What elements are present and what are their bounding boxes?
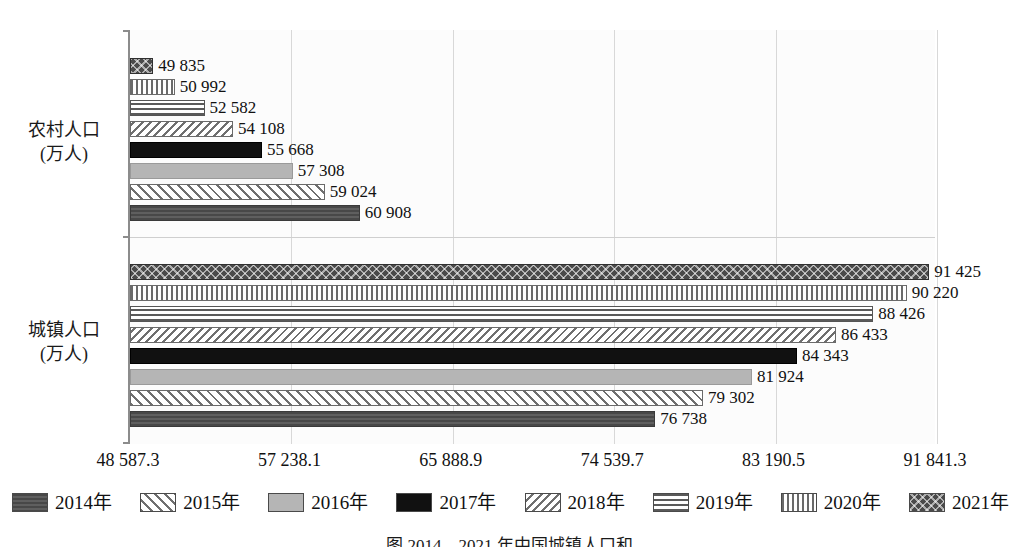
legend-item-2018[interactable]: 2018年 bbox=[525, 493, 625, 512]
plot-area: 60 90859 02457 30855 66854 10852 58250 9… bbox=[128, 30, 935, 444]
legend-item-2020[interactable]: 2020年 bbox=[781, 493, 881, 512]
bar-2021-rural bbox=[130, 58, 153, 74]
legend-item-2021[interactable]: 2021年 bbox=[909, 493, 1009, 512]
bar-2017-urban bbox=[130, 348, 797, 364]
axis-tick-mid bbox=[123, 236, 130, 238]
legend-label: 2016年 bbox=[311, 493, 368, 512]
category-label-urban: 城镇人口 (万人) bbox=[4, 318, 124, 366]
category-label-urban-line2: (万人) bbox=[4, 342, 124, 366]
category-separator bbox=[130, 237, 935, 238]
legend-label: 2019年 bbox=[696, 493, 753, 512]
category-label-urban-line1: 城镇人口 bbox=[4, 318, 124, 342]
bar-2020-rural bbox=[130, 79, 175, 95]
x-tick-label: 57 238.1 bbox=[209, 450, 369, 471]
legend-swatch-icon bbox=[525, 493, 561, 512]
category-label-rural: 农村人口 (万人) bbox=[4, 118, 124, 166]
bar-value-label: 55 668 bbox=[267, 142, 314, 158]
legend-item-2019[interactable]: 2019年 bbox=[653, 493, 753, 512]
chart-root: 60 90859 02457 30855 66854 10852 58250 9… bbox=[0, 0, 1019, 547]
bar-2014-urban bbox=[130, 411, 655, 427]
legend-label: 2018年 bbox=[568, 493, 625, 512]
axis-tick-bottom bbox=[123, 442, 130, 444]
legend-swatch-icon bbox=[653, 493, 689, 512]
bar-value-label: 50 992 bbox=[180, 79, 227, 95]
legend-swatch-icon bbox=[268, 493, 304, 512]
bar-value-label: 57 308 bbox=[298, 163, 345, 179]
x-tick-label: 83 190.5 bbox=[694, 450, 854, 471]
legend-label: 2014年 bbox=[55, 493, 112, 512]
x-tick-label: 91 841.3 bbox=[855, 450, 1015, 471]
bar-2015-urban bbox=[130, 390, 703, 406]
bar-value-label: 84 343 bbox=[802, 348, 849, 364]
category-label-rural-line2: (万人) bbox=[4, 142, 124, 166]
legend-label: 2017年 bbox=[439, 493, 496, 512]
category-label-rural-line1: 农村人口 bbox=[4, 118, 124, 142]
bar-value-label: 59 024 bbox=[330, 184, 377, 200]
bar-2017-rural bbox=[130, 142, 262, 158]
legend-item-2014[interactable]: 2014年 bbox=[12, 493, 112, 512]
bar-2018-urban bbox=[130, 327, 836, 343]
bar-2015-rural bbox=[130, 184, 325, 200]
legend-label: 2015年 bbox=[183, 493, 240, 512]
bar-value-label: 81 924 bbox=[757, 369, 804, 385]
bar-2014-rural bbox=[130, 205, 360, 221]
legend-item-2017[interactable]: 2017年 bbox=[396, 493, 496, 512]
legend-swatch-icon bbox=[12, 493, 48, 512]
bar-2016-urban bbox=[130, 369, 752, 385]
bar-value-label: 54 108 bbox=[238, 121, 285, 137]
chart-legend: 2014年2015年2016年2017年2018年2019年2020年2021年 bbox=[8, 487, 1013, 517]
bar-value-label: 79 302 bbox=[708, 390, 755, 406]
bar-value-label: 52 582 bbox=[210, 100, 257, 116]
figure-caption: 图 2014—2021 年中国城镇人口和 bbox=[0, 531, 1019, 547]
legend-item-2015[interactable]: 2015年 bbox=[140, 493, 240, 512]
bar-value-label: 76 738 bbox=[660, 411, 707, 427]
bar-2021-urban bbox=[130, 264, 929, 280]
axis-tick-top bbox=[123, 30, 130, 32]
bar-2019-urban bbox=[130, 306, 873, 322]
legend-swatch-icon bbox=[396, 493, 432, 512]
bar-value-label: 49 835 bbox=[158, 58, 205, 74]
bar-2019-rural bbox=[130, 100, 205, 116]
bar-2018-rural bbox=[130, 121, 233, 137]
legend-swatch-icon bbox=[909, 493, 945, 512]
x-tick-label: 48 587.3 bbox=[48, 450, 208, 471]
bar-value-label: 86 433 bbox=[841, 327, 888, 343]
legend-item-2016[interactable]: 2016年 bbox=[268, 493, 368, 512]
gridline bbox=[937, 30, 938, 444]
legend-label: 2020年 bbox=[824, 493, 881, 512]
bar-value-label: 91 425 bbox=[934, 264, 981, 280]
bar-2020-urban bbox=[130, 285, 907, 301]
bar-2016-rural bbox=[130, 163, 293, 179]
bar-value-label: 90 220 bbox=[912, 285, 959, 301]
x-tick-label: 65 888.9 bbox=[371, 450, 531, 471]
legend-label: 2021年 bbox=[952, 493, 1009, 512]
legend-swatch-icon bbox=[140, 493, 176, 512]
x-tick-label: 74 539.7 bbox=[532, 450, 692, 471]
legend-swatch-icon bbox=[781, 493, 817, 512]
bar-value-label: 60 908 bbox=[365, 205, 412, 221]
bar-value-label: 88 426 bbox=[878, 306, 925, 322]
